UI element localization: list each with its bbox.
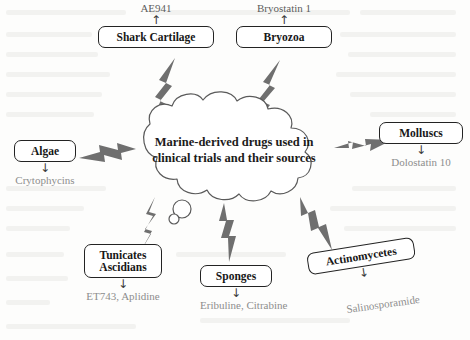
down-arrow-icon: ↓ [379,145,463,156]
node-label-bryozoa[interactable]: Bryozoa [236,26,332,48]
up-arrow-icon: ↑ [236,15,332,26]
down-arrow-icon: ↓ [14,163,76,174]
diagram-canvas: Marine-derived drugs used in clinical tr… [0,0,470,340]
compound-label-et743-aplidine: ET743, Aplidine [84,290,162,302]
node-label-tunicates-ascidians[interactable]: Tunicates Ascidians [84,244,162,278]
node-label-line1: Tunicates [100,249,147,261]
compound-label-eribuline-citrabine: Eribuline, Citrabine [200,299,272,311]
node-molluscs[interactable]: Molluscs ↓ Dolostatin 10 [379,122,463,168]
node-sponges[interactable]: Sponges ↓ Eribuline, Citrabine [200,265,272,311]
node-bryozoa[interactable]: Bryostatin 1 ↑ Bryozoa [236,2,332,48]
node-algae[interactable]: Algae ↓ Crytophycins [14,140,76,186]
compound-label-crytophycins: Crytophycins [14,174,76,186]
node-label-sponges[interactable]: Sponges [200,265,272,287]
node-label-shark-cartilage[interactable]: Shark Cartilage [98,26,214,48]
down-arrow-icon: ↓ [84,279,162,290]
node-label-line2: Ascidians [92,261,154,274]
node-shark-cartilage[interactable]: AE941 ↑ Shark Cartilage [98,2,214,48]
node-label-algae[interactable]: Algae [14,140,76,162]
node-label-molluscs[interactable]: Molluscs [379,122,463,144]
up-arrow-icon: ↑ [98,15,214,26]
cloud-caption-line2: clinical trials and their sources [126,150,342,166]
down-arrow-icon: ↓ [200,288,272,299]
cloud-caption: Marine-derived drugs used in clinical tr… [126,134,342,166]
cloud-trail-circle-small [169,214,179,224]
node-tunicates-ascidians[interactable]: Tunicates Ascidians ↓ ET743, Aplidine [84,244,162,302]
cloud-caption-line1: Marine-derived drugs used in [126,134,342,150]
compound-label-dolostatin-10: Dolostatin 10 [379,156,463,168]
